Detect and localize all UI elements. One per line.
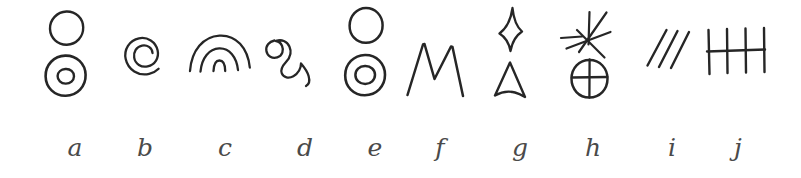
- panel-label-b: b: [125, 125, 165, 171]
- tally-marks-icon: [700, 0, 776, 125]
- panel-label-g: g: [500, 125, 540, 171]
- panel-label-d: d: [285, 125, 325, 171]
- diamond-above-triangle-icon: [482, 0, 540, 125]
- circle-above-donut-icon: [338, 0, 394, 125]
- starburst-above-crossed-circle-icon: [552, 0, 628, 125]
- panel-label-e: e: [355, 125, 395, 171]
- symbol-panel-i: [640, 0, 702, 125]
- panel-label-row: a b c d e f g h i j: [0, 125, 801, 178]
- panel-label-h: h: [573, 125, 613, 171]
- panel-label-j: j: [718, 125, 758, 171]
- circle-above-donut-icon: [38, 0, 94, 125]
- nested-arcs-icon: [184, 0, 262, 125]
- panel-label-c: c: [205, 125, 245, 171]
- symbol-panel-h: [552, 0, 628, 125]
- symbol-panel-b: [112, 0, 174, 125]
- spiral-icon: [112, 0, 174, 125]
- m-zigzag-icon: [402, 0, 470, 125]
- panel-label-f: f: [420, 125, 460, 171]
- wavy-squiggle-icon: [260, 0, 332, 125]
- symbol-panel-a: [38, 0, 94, 125]
- panel-label-a: a: [55, 125, 95, 171]
- symbol-panel-j: [700, 0, 776, 125]
- symbol-panel-c: [184, 0, 262, 125]
- symbol-panel-f: [402, 0, 470, 125]
- symbol-panel-e: [338, 0, 394, 125]
- symbol-panel-d: [260, 0, 332, 125]
- three-slashes-icon: [640, 0, 702, 125]
- panel-label-i: i: [652, 125, 692, 171]
- figure-plate: a b c d e f g h i j: [0, 0, 801, 178]
- symbol-panel-g: [482, 0, 540, 125]
